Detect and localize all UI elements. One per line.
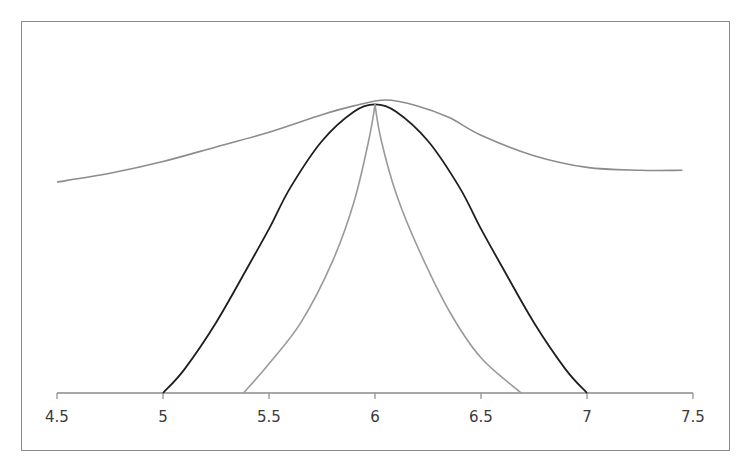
x-tick-label: 5.5 <box>257 408 281 426</box>
x-tick-label: 6.5 <box>469 408 493 426</box>
x-tick-label: 5 <box>158 408 168 426</box>
series-group <box>57 100 682 393</box>
black-bell-curve <box>163 104 587 393</box>
wide-smooth-curve <box>57 100 682 182</box>
x-tick-label: 7.5 <box>681 408 705 426</box>
gray-peaked-curve <box>244 104 522 393</box>
x-axis-ticks <box>57 393 693 399</box>
x-tick-label: 7 <box>582 408 592 426</box>
x-tick-label: 4.5 <box>45 408 69 426</box>
chart-plot-area: 4.555.566.577.5 <box>0 0 755 473</box>
x-axis: 4.555.566.577.5 <box>45 393 705 426</box>
x-tick-label: 6 <box>370 408 380 426</box>
x-axis-tick-labels: 4.555.566.577.5 <box>45 408 705 426</box>
